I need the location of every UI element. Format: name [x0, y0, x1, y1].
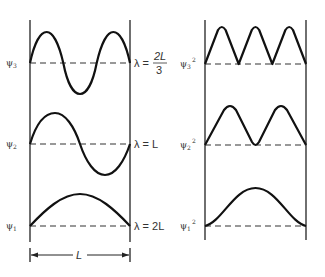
box-width-label: L [76, 249, 82, 261]
psi1-wavelength: λ = 2L [134, 220, 164, 232]
particle-in-box-diagram: ψ3 λ = 2L 3 ψ2 λ = L ψ1 λ = 2L L [0, 0, 325, 277]
psi3-squared-wave [205, 27, 306, 64]
arrow-right-icon [122, 253, 129, 258]
psi3-wavelength-numerator: 2L [153, 50, 166, 62]
psi1-wave [30, 194, 130, 226]
psi2-squared-label: ψ22 [180, 137, 196, 151]
psi3-wavelength-denominator: 3 [156, 64, 162, 76]
arrow-left-icon [31, 253, 38, 258]
psi1-squared-label: ψ12 [180, 218, 196, 232]
box-width-dimension: L [30, 248, 130, 262]
psi2-label: ψ2 [6, 139, 17, 150]
psi3-wavelength: λ = [134, 57, 149, 69]
psi3-label: ψ3 [6, 58, 17, 69]
psi2-squared-wave [205, 106, 306, 145]
left-panel-wavefunctions: ψ3 λ = 2L 3 ψ2 λ = L ψ1 λ = 2L L [6, 20, 167, 262]
right-panel-probability-densities: ψ32 ψ22 ψ12 [180, 20, 306, 240]
psi3-squared-label: ψ32 [180, 56, 196, 70]
psi1-squared-wave [205, 188, 306, 226]
psi1-label: ψ1 [6, 221, 17, 232]
psi2-wavelength: λ = L [134, 138, 158, 150]
